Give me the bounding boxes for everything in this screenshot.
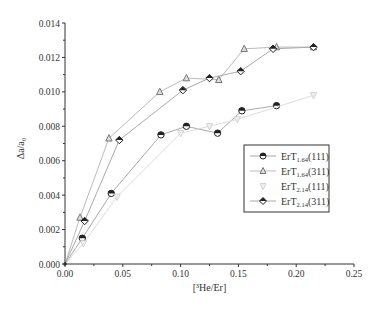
data-point [106, 135, 112, 141]
y-tick-label: 0.014 [39, 19, 61, 29]
x-axis-title: [³He/Er] [193, 282, 227, 293]
data-point [206, 74, 213, 81]
x-tick-label: 0.10 [172, 269, 189, 279]
y-tick-label: 0.008 [39, 122, 61, 132]
x-tick-label: 0.20 [288, 269, 305, 279]
data-point [108, 190, 114, 196]
data-point [183, 123, 189, 129]
x-tick-label: 0.25 [346, 269, 363, 279]
data-point [214, 130, 220, 136]
x-tick-label: 0.05 [114, 269, 131, 279]
y-tick-label: 0.002 [39, 225, 61, 235]
data-point [157, 88, 163, 94]
data-point [183, 74, 189, 80]
data-point [239, 108, 245, 114]
y-tick-label: 0.004 [39, 191, 61, 201]
chart: 0.000.050.100.150.200.250.0000.0020.0040… [0, 0, 380, 311]
data-point [158, 132, 164, 138]
y-tick-label: 0.006 [39, 156, 61, 166]
y-tick-label: 0.010 [39, 87, 61, 97]
y-tick-label: 0.012 [39, 53, 61, 63]
y-axis-title: Δa/a₀ [15, 137, 26, 159]
legend: ErT1.64(111)ErT1.64(311)ErT2.14(111)ErT2… [244, 145, 329, 212]
x-tick-label: 0.00 [57, 269, 74, 279]
data-point [237, 68, 244, 75]
y-tick-label: 0.000 [39, 260, 61, 270]
x-tick-label: 0.15 [230, 269, 247, 279]
